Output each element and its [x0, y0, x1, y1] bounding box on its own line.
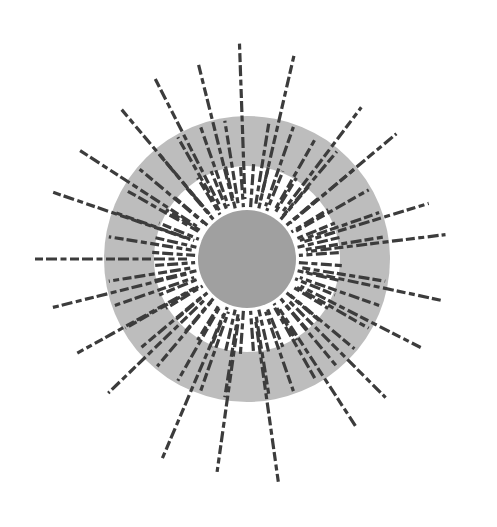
radial-burst-canvas: [0, 0, 497, 527]
radial-burst-figure: [0, 0, 497, 527]
inner-gray-disc: [198, 210, 296, 308]
